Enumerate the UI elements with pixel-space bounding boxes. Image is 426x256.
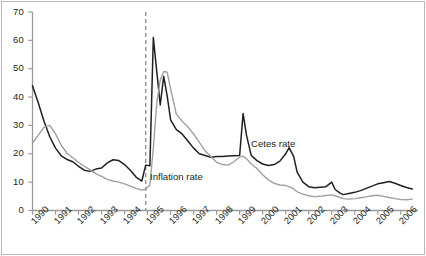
series-line-inflation-rate: [33, 72, 413, 200]
y-axis-tick-label: 30: [2, 119, 24, 130]
y-axis-tick-label: 20: [2, 147, 24, 158]
y-axis-tick-label: 50: [2, 62, 24, 73]
y-axis-tick-label: 60: [2, 34, 24, 45]
chart-figure: 010203040506070 199019911992199319941995…: [0, 0, 426, 256]
series-line-cetes-rate: [33, 38, 413, 195]
inflation-rate-label: Inflation rate: [150, 171, 203, 182]
y-axis-tick-label: 10: [2, 176, 24, 187]
y-axis-tick-label: 0: [2, 204, 24, 215]
y-axis-tick-label: 40: [2, 91, 24, 102]
cetes-rate-label: Cetes rate: [251, 138, 295, 149]
y-axis-tick-label: 70: [2, 6, 24, 17]
data-series-layer: [33, 38, 413, 200]
axes-layer: [28, 12, 418, 215]
